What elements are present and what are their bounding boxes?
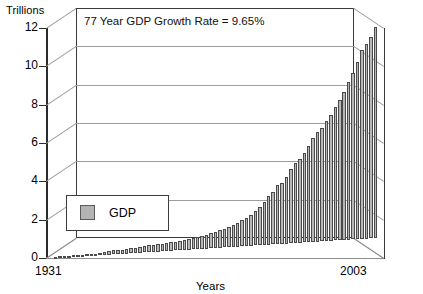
bar: [76, 255, 79, 257]
bar: [112, 250, 115, 254]
bar: [94, 254, 97, 256]
bar: [196, 237, 199, 249]
bar: [285, 177, 288, 244]
bar-series-gdp: [0, 0, 423, 294]
bar: [232, 225, 235, 246]
bar: [218, 230, 221, 247]
bar: [156, 244, 159, 251]
bar: [116, 250, 119, 254]
gdp-bar-chart: Trillions 024681012 77 Year GDP Growth R…: [0, 0, 423, 294]
x-axis-start-label: 1931: [35, 264, 62, 278]
bar: [161, 244, 164, 252]
bar: [351, 73, 354, 239]
bar: [138, 247, 141, 252]
bar: [174, 242, 177, 251]
bar: [67, 256, 70, 258]
bar: [192, 238, 195, 249]
bar: [245, 218, 248, 246]
bar: [249, 215, 252, 246]
bar: [129, 248, 132, 253]
bar: [320, 128, 323, 241]
bar: [169, 242, 172, 251]
bar: [316, 132, 319, 242]
bar: [63, 256, 66, 258]
bar: [311, 138, 314, 242]
bar: [280, 183, 283, 244]
bar: [307, 146, 310, 242]
bar: [147, 245, 150, 252]
legend-label-gdp: GDP: [109, 206, 136, 220]
bar: [72, 255, 75, 257]
bar: [325, 121, 328, 241]
bar: [134, 248, 137, 253]
bar: [214, 232, 217, 248]
bar: [227, 227, 230, 247]
bar: [125, 249, 128, 254]
bar: [276, 185, 279, 244]
legend-swatch-gdp: [80, 205, 95, 220]
bar: [187, 239, 190, 249]
bar: [365, 44, 368, 239]
bar: [152, 245, 155, 252]
bar: [356, 62, 359, 239]
bar: [178, 241, 181, 251]
bar: [143, 246, 146, 252]
bar: [103, 252, 106, 255]
bar: [183, 240, 186, 250]
bar: [98, 253, 101, 255]
bar: [258, 207, 261, 245]
chart-legend: GDP: [66, 195, 169, 231]
bar: [58, 256, 61, 258]
bar: [347, 82, 350, 240]
bar: [223, 229, 226, 248]
bar: [271, 192, 274, 244]
bar: [254, 211, 257, 245]
bar: [236, 223, 239, 246]
bar: [374, 27, 377, 238]
bar: [107, 251, 110, 255]
x-axis-end-label: 2003: [340, 264, 367, 278]
bar: [85, 254, 88, 256]
bar: [205, 235, 208, 249]
bar: [209, 233, 212, 248]
bar: [303, 153, 306, 242]
bar: [121, 250, 124, 254]
bar: [294, 163, 297, 243]
bar: [90, 254, 93, 256]
bar: [338, 100, 341, 240]
bar: [263, 202, 266, 245]
bar: [360, 50, 363, 238]
bar: [267, 196, 270, 244]
bar: [334, 107, 337, 241]
x-axis-title: Years: [196, 280, 225, 292]
bar: [342, 92, 345, 240]
bar: [369, 37, 372, 238]
bar: [298, 159, 301, 243]
bar: [289, 169, 292, 243]
bar: [240, 220, 243, 246]
bar: [81, 255, 84, 257]
bar: [200, 236, 203, 249]
bar: [165, 243, 168, 251]
bar: [54, 257, 57, 259]
bar: [329, 115, 332, 241]
